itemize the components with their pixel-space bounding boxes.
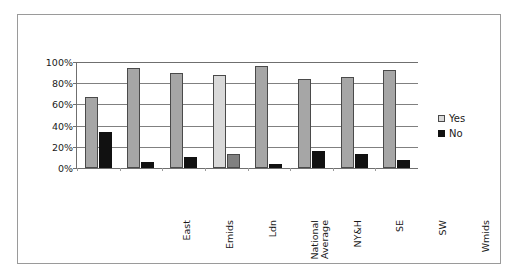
y-tick-label: 20% [33, 143, 73, 152]
y-tick-mark [73, 126, 77, 127]
chart-legend: YesNo [438, 111, 465, 141]
y-tick-mark [73, 104, 77, 105]
x-tick-label: Ldn [268, 220, 278, 280]
legend-swatch-no-icon [438, 130, 445, 137]
y-tick-label: 60% [33, 100, 73, 109]
bar-yes [383, 70, 396, 168]
y-tick-mark [73, 62, 77, 63]
legend-item: Yes [438, 111, 465, 126]
x-tick-mark [375, 168, 376, 171]
legend-label: Yes [449, 114, 465, 124]
x-tick-mark [248, 168, 249, 171]
y-tick-label: 100% [33, 58, 73, 67]
x-tick-mark [333, 168, 334, 171]
y-tick-mark [73, 83, 77, 84]
bar-yes [341, 77, 354, 168]
x-tick-label: Wmids [481, 220, 491, 280]
y-tick-mark [73, 147, 77, 148]
x-tick-label: NY&H [353, 220, 363, 280]
bar-group [127, 62, 154, 168]
bar-no [227, 154, 240, 168]
bar-yes [127, 68, 140, 168]
x-tick-label: SW [438, 220, 448, 280]
bar-group [341, 62, 368, 168]
chart-frame: 100%80%60%40%20%0% EastEmidsLdnNational … [17, 14, 501, 264]
bar-no [99, 132, 112, 168]
x-tick-mark [205, 168, 206, 171]
y-tick-label: 40% [33, 122, 73, 131]
bar-no [141, 162, 154, 168]
bar-group [255, 62, 282, 168]
plot-area: 100%80%60%40%20%0% EastEmidsLdnNational … [76, 62, 418, 169]
bar-yes [298, 79, 311, 168]
y-tick-label: 80% [33, 79, 73, 88]
x-tick-mark [120, 168, 121, 171]
bar-group [298, 62, 325, 168]
x-tick-label: National Average [310, 220, 330, 280]
bar-no [355, 154, 368, 168]
bar-yes [85, 97, 98, 168]
x-tick-label: Emids [225, 220, 235, 280]
bar-no [184, 157, 197, 168]
bar-group [383, 62, 410, 168]
bar-group [213, 62, 240, 168]
bar-no [397, 160, 410, 168]
bar-yes [255, 66, 268, 168]
x-tick-label: SE [395, 220, 405, 280]
bar-group [170, 62, 197, 168]
legend-label: No [449, 129, 463, 139]
bar-yes [170, 73, 183, 168]
bar-group [85, 62, 112, 168]
y-tick-label: 0% [33, 164, 73, 173]
x-tick-mark [77, 168, 78, 171]
legend-item: No [438, 126, 465, 141]
x-tick-label: East [182, 220, 192, 280]
bar-no [312, 151, 325, 168]
x-tick-mark [290, 168, 291, 171]
legend-swatch-yes-icon [438, 115, 445, 122]
bar-no [269, 164, 282, 168]
x-tick-mark [162, 168, 163, 171]
bar-yes [213, 75, 226, 168]
